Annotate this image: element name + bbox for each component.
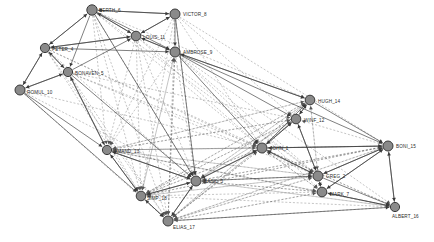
node-label-layer: GREG_2BASIL_3PETER_4BONAVEN_5BERTH_6MARK… (27, 8, 419, 230)
node-label: SIMP_18 (147, 196, 167, 201)
dashed-edge (94, 15, 166, 215)
solid-edge (70, 15, 90, 66)
dashed-edge (73, 74, 256, 146)
edge-arrowhead (126, 35, 130, 39)
graph-node[interactable] (102, 145, 111, 154)
dashed-edge (267, 152, 318, 189)
solid-edge (51, 37, 131, 48)
graph-node[interactable] (291, 114, 301, 124)
edge-arrowhead (300, 110, 304, 114)
solid-edge (171, 186, 192, 216)
node-label: WINF_12 (304, 118, 325, 123)
network-graph-svg: GREG_2BASIL_3PETER_4BONAVEN_5BERTH_6MARK… (0, 0, 434, 242)
edge-arrowhead (98, 143, 102, 146)
graph-node[interactable] (63, 67, 72, 76)
edge-arrowhead (173, 42, 177, 45)
node-label: ELIAS_17 (173, 225, 195, 230)
solid-edge (25, 93, 103, 147)
solid-edge (176, 20, 196, 175)
node-label: JOHN_1 (270, 146, 289, 151)
graph-node[interactable] (163, 216, 173, 226)
node-label: GREG_2 (326, 174, 346, 179)
node-label: VICTOR_8 (183, 12, 207, 17)
dashed-edge (180, 17, 383, 143)
solid-edge (180, 54, 382, 143)
edge-arrowhead (379, 150, 383, 154)
edge-arrowhead (312, 192, 316, 196)
graph-node[interactable] (136, 191, 146, 201)
edge-arrowhead (392, 198, 396, 202)
edge-arrowhead (189, 186, 193, 190)
graph-node[interactable] (317, 187, 327, 197)
solid-edge (71, 77, 105, 145)
edge-arrowhead (327, 185, 331, 189)
node-label: ALBERT_16 (392, 214, 419, 219)
dashed-edge (174, 193, 317, 220)
edge-arrowhead (165, 12, 168, 16)
solid-edge (174, 207, 390, 220)
solid-edge (49, 14, 87, 45)
graph-node[interactable] (87, 5, 97, 15)
solid-edge (25, 74, 62, 88)
edge-arrowhead (186, 182, 190, 186)
edge-arrowhead (141, 186, 145, 190)
edge-arrowhead (83, 14, 87, 18)
dashed-edge (50, 50, 313, 173)
graph-node[interactable] (170, 47, 180, 57)
solid-edge (112, 152, 190, 179)
solid-edge (23, 53, 42, 85)
arrowhead-layer (23, 9, 396, 223)
node-label: PETER_4 (52, 47, 74, 52)
node-label: ROMUL_10 (27, 90, 53, 95)
graph-node[interactable] (170, 9, 180, 19)
node-label: AMAND_13 (114, 149, 140, 154)
node-label: MARK_7 (330, 192, 350, 197)
solid-edge (315, 103, 383, 143)
dashed-edge (147, 192, 317, 196)
edge-arrowhead (110, 155, 114, 159)
node-label: HUGH_14 (318, 99, 341, 104)
solid-edge (179, 56, 258, 143)
edge-arrowhead (387, 152, 391, 156)
network-graph-canvas: GREG_2BASIL_3PETER_4BONAVEN_5BERTH_6MARK… (0, 0, 434, 242)
dashed-edge (136, 41, 141, 190)
node-label: BERTH_6 (99, 8, 121, 13)
dashed-edge (302, 121, 383, 145)
dashed-edge (176, 58, 195, 175)
graph-node[interactable] (390, 202, 399, 211)
solid-edge (98, 13, 132, 33)
dashed-edge (179, 18, 291, 115)
graph-node[interactable] (131, 31, 141, 41)
node-label: AMBROSE_9 (183, 50, 213, 55)
dashed-edge (97, 14, 258, 144)
edge-arrowhead (50, 41, 54, 45)
solid-edge (24, 94, 136, 192)
graph-node[interactable] (40, 43, 49, 52)
dashed-edge (25, 91, 256, 146)
solid-edge (141, 17, 170, 33)
solid-edge (181, 54, 305, 98)
graph-node[interactable] (305, 95, 315, 105)
graph-node[interactable] (257, 143, 267, 153)
graph-node[interactable] (313, 171, 323, 181)
node-label: BONI_15 (396, 144, 416, 149)
edge-arrowhead (318, 182, 322, 186)
dashed-edge (179, 56, 313, 172)
edge-arrowhead (309, 106, 313, 110)
node-label: BASIL_3 (204, 179, 223, 184)
graph-node[interactable] (383, 141, 393, 151)
edge-arrowhead (104, 141, 108, 145)
dashed-edge (178, 19, 259, 143)
solid-edge (142, 38, 170, 50)
node-label: BONAVEN_5 (75, 71, 104, 76)
solid-edge (268, 151, 313, 174)
solid-edge (389, 152, 395, 202)
solid-edge (324, 148, 383, 173)
node-label: LOUIS_11 (143, 35, 166, 40)
dashed-edge (147, 150, 257, 194)
dashed-edge (93, 16, 139, 191)
graph-node[interactable] (15, 85, 25, 95)
graph-node[interactable] (191, 176, 201, 186)
